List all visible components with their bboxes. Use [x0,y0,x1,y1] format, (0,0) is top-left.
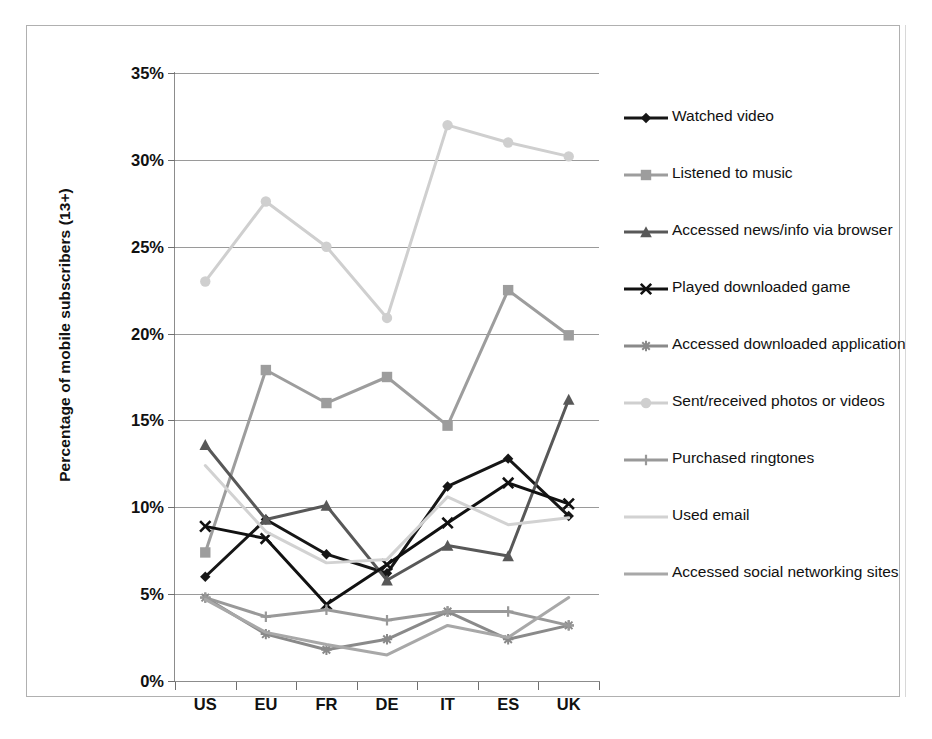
y-tick-label: 5% [140,585,164,604]
legend-label: Accessed social networking sites [672,562,899,581]
legend-item-5[interactable]: Accessed downloaded application [623,334,923,357]
legend-item-4[interactable]: Played downloaded game [623,277,923,300]
data-point-square [321,398,331,408]
y-tick [168,247,175,248]
data-point-circle [321,242,331,252]
legend-item-1[interactable]: Watched video [623,106,923,129]
data-point-circle [200,276,210,286]
y-axis-title: Percentage of mobile subscribers (13+) [56,165,74,505]
legend-swatch-plus-icon [623,449,669,471]
data-point-plus [641,455,651,465]
legend-swatch-diamond-icon [623,107,669,129]
data-point-square [641,170,651,180]
y-tick [168,73,175,74]
x-tick [599,682,600,690]
legend-label: Purchased ringtones [672,448,814,467]
x-tick-label-fr: FR [315,695,337,714]
series-7 [200,592,574,630]
data-point-cross [442,518,452,528]
data-point-plus [261,612,271,622]
data-point-triangle [563,394,575,405]
plot-area: 0%5%10%15%20%25%30%35% USEUFRDEITESUK [175,73,599,681]
x-tick-label-es: ES [497,695,519,714]
y-tick-label: 20% [131,324,164,343]
data-point-square [503,285,513,295]
chart-page: Percentage of mobile subscribers (13+) 0… [0,0,932,739]
legend-label: Sent/received photos or videos [672,391,885,410]
legend-label: Watched video [672,106,774,125]
x-tick [417,682,418,690]
data-point-star [641,341,651,351]
x-tick-label-uk: UK [557,695,581,714]
y-tick-label: 0% [140,672,164,691]
series-line [205,598,568,655]
data-point-square [382,372,392,382]
y-tick-label: 10% [131,498,164,517]
series-line [205,125,568,318]
series-layer [175,73,599,681]
data-point-circle [382,313,392,323]
data-point-star [382,634,392,644]
legend-item-8[interactable]: Used email [623,505,923,528]
legend-item-3[interactable]: Accessed news/info via browser [623,220,923,243]
legend-swatch-square-icon [623,164,669,186]
legend-label: Played downloaded game [672,277,850,296]
legend-item-7[interactable]: Purchased ringtones [623,448,923,471]
data-point-plus [503,606,513,616]
legend-item-9[interactable]: Accessed social networking sites [623,562,923,585]
legend-swatch-circle-icon [623,392,669,414]
chart-frame: Percentage of mobile subscribers (13+) 0… [26,25,900,697]
y-tick [168,594,175,595]
data-point-circle [503,137,513,147]
data-point-square [442,420,452,430]
right-rule [905,25,906,697]
data-point-plus [382,615,392,625]
legend-swatch-none-icon [623,506,669,528]
x-tick-label-us: US [194,695,217,714]
y-tick-label: 30% [131,150,164,169]
y-tick [168,420,175,421]
series-line [205,400,568,581]
data-point-square [564,330,574,340]
data-point-circle [564,151,574,161]
legend-swatch-none-icon [623,563,669,585]
x-tick-label-eu: EU [254,695,277,714]
x-tick-label-de: DE [376,695,399,714]
x-tick [296,682,297,690]
y-tick [168,681,175,682]
data-point-circle [261,196,271,206]
x-tick [357,682,358,690]
data-point-triangle [199,439,211,450]
series-3 [199,394,574,586]
legend-swatch-cross-icon [623,278,669,300]
series-4 [200,478,574,610]
y-tick-label: 25% [131,237,164,256]
legend-label: Used email [672,505,750,524]
x-tick [478,682,479,690]
x-axis-line [174,681,600,682]
series-9 [205,598,568,655]
legend-label: Accessed downloaded application [672,334,906,353]
series-6 [200,120,574,323]
data-point-circle [641,398,651,408]
y-tick [168,334,175,335]
legend-swatch-triangle-icon [623,221,669,243]
legend-item-2[interactable]: Listened to music [623,163,923,186]
x-tick-label-it: IT [440,695,455,714]
legend-swatch-star-icon [623,335,669,357]
data-point-square [261,365,271,375]
series-1 [200,453,574,582]
legend-label: Listened to music [672,163,793,182]
top-caption [0,0,932,9]
data-point-plus [321,605,331,615]
y-tick [168,160,175,161]
x-tick [175,682,176,690]
data-point-square [200,547,210,557]
legend-item-6[interactable]: Sent/received photos or videos [623,391,923,414]
series-2 [200,285,574,558]
y-tick-label: 15% [131,411,164,430]
x-tick [538,682,539,690]
data-point-circle [442,120,452,130]
x-tick [236,682,237,690]
legend-label: Accessed news/info via browser [672,220,893,239]
